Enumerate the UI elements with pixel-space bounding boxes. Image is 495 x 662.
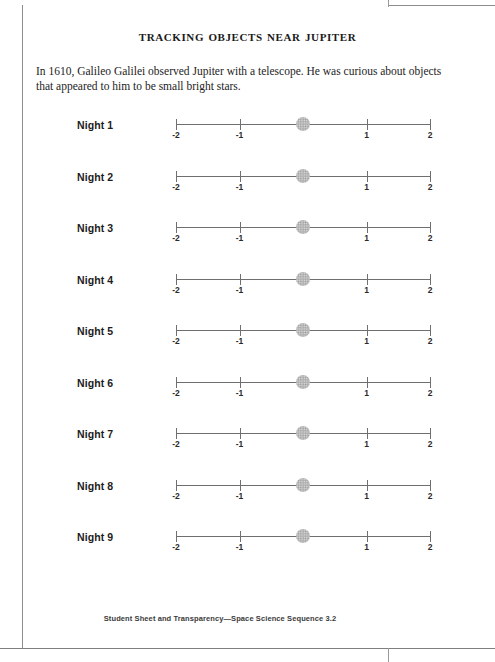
axis-tick bbox=[430, 274, 431, 285]
axis-tick-label: -2 bbox=[166, 542, 186, 552]
axis-tick-label: 1 bbox=[357, 285, 377, 295]
worksheet-sheet: Tracking Objects Near Jupiter In 1610, G… bbox=[0, 0, 495, 648]
axis-tick-label: 1 bbox=[357, 439, 377, 449]
number-line: -2-112 bbox=[176, 270, 430, 300]
axis-tick-label: -1 bbox=[230, 285, 250, 295]
number-line: -2-112 bbox=[176, 476, 430, 506]
jupiter-marker bbox=[296, 529, 310, 543]
axis-tick bbox=[367, 377, 368, 388]
jupiter-marker bbox=[296, 375, 310, 389]
number-line: -2-112 bbox=[176, 527, 430, 557]
axis-tick-label: 2 bbox=[420, 491, 440, 501]
axis-tick-label: -2 bbox=[166, 439, 186, 449]
jupiter-marker bbox=[296, 478, 310, 492]
scan-edge-bottom bbox=[0, 648, 495, 649]
jupiter-marker bbox=[296, 220, 310, 234]
axis-tick-label: 2 bbox=[420, 182, 440, 192]
axis-tick bbox=[240, 377, 241, 388]
axis-tick bbox=[367, 119, 368, 130]
axis-tick-label: 2 bbox=[420, 439, 440, 449]
axis-tick-label: -1 bbox=[230, 388, 250, 398]
axis-tick-label: 1 bbox=[357, 130, 377, 140]
axis-tick bbox=[367, 531, 368, 542]
axis-tick-label: 2 bbox=[420, 233, 440, 243]
night-label: Night 6 bbox=[77, 377, 167, 389]
axis-tick-label: 1 bbox=[357, 336, 377, 346]
axis-tick bbox=[240, 325, 241, 336]
night-row: Night 4-2-112 bbox=[0, 270, 495, 304]
axis-tick-label: -2 bbox=[166, 285, 186, 295]
axis-tick bbox=[430, 377, 431, 388]
night-row: Night 7-2-112 bbox=[0, 424, 495, 458]
axis-tick-label: 2 bbox=[420, 388, 440, 398]
jupiter-marker bbox=[296, 272, 310, 286]
axis-tick bbox=[240, 119, 241, 130]
night-row: Night 9-2-112 bbox=[0, 527, 495, 561]
axis-tick-label: 2 bbox=[420, 130, 440, 140]
axis-tick-label: 1 bbox=[357, 388, 377, 398]
axis-tick-label: -1 bbox=[230, 130, 250, 140]
footer-credit: Student Sheet and Transparency—Space Sci… bbox=[0, 614, 440, 623]
axis-tick bbox=[367, 171, 368, 182]
axis-tick bbox=[367, 274, 368, 285]
night-row: Night 1-2-112 bbox=[0, 115, 495, 149]
axis-tick bbox=[367, 325, 368, 336]
axis-tick-label: -1 bbox=[230, 542, 250, 552]
axis-tick-label: -1 bbox=[230, 491, 250, 501]
axis-tick bbox=[367, 480, 368, 491]
night-rows-container: Night 1-2-112Night 2-2-112Night 3-2-112N… bbox=[0, 0, 495, 600]
axis-tick bbox=[367, 428, 368, 439]
axis-tick bbox=[240, 274, 241, 285]
axis-tick bbox=[240, 480, 241, 491]
axis-tick bbox=[176, 274, 177, 285]
axis-tick bbox=[430, 171, 431, 182]
axis-tick bbox=[176, 119, 177, 130]
number-line: -2-112 bbox=[176, 115, 430, 145]
axis-tick bbox=[240, 428, 241, 439]
axis-tick-label: 2 bbox=[420, 542, 440, 552]
axis-tick bbox=[176, 222, 177, 233]
axis-tick bbox=[430, 531, 431, 542]
night-label: Night 1 bbox=[77, 119, 167, 131]
axis-tick-label: -2 bbox=[166, 336, 186, 346]
axis-tick-label: 1 bbox=[357, 491, 377, 501]
number-line: -2-112 bbox=[176, 424, 430, 454]
axis-tick-label: -1 bbox=[230, 233, 250, 243]
axis-tick bbox=[430, 119, 431, 130]
number-line: -2-112 bbox=[176, 321, 430, 351]
axis-tick-label: -2 bbox=[166, 491, 186, 501]
night-row: Night 8-2-112 bbox=[0, 476, 495, 510]
night-label: Night 8 bbox=[77, 480, 167, 492]
night-row: Night 6-2-112 bbox=[0, 373, 495, 407]
number-line: -2-112 bbox=[176, 167, 430, 197]
axis-tick bbox=[430, 325, 431, 336]
night-row: Night 2-2-112 bbox=[0, 167, 495, 201]
night-label: Night 3 bbox=[77, 222, 167, 234]
axis-tick-label: 1 bbox=[357, 233, 377, 243]
axis-tick-label: -1 bbox=[230, 182, 250, 192]
scan-edge-bottom-tick bbox=[388, 648, 389, 662]
night-label: Night 4 bbox=[77, 274, 167, 286]
jupiter-marker bbox=[296, 169, 310, 183]
jupiter-marker bbox=[296, 426, 310, 440]
jupiter-marker bbox=[296, 323, 310, 337]
axis-tick bbox=[176, 480, 177, 491]
night-row: Night 3-2-112 bbox=[0, 218, 495, 252]
axis-tick-label: -1 bbox=[230, 336, 250, 346]
axis-tick bbox=[240, 171, 241, 182]
night-label: Night 2 bbox=[77, 171, 167, 183]
axis-tick bbox=[240, 531, 241, 542]
axis-tick-label: -2 bbox=[166, 130, 186, 140]
axis-tick bbox=[176, 531, 177, 542]
axis-tick-label: 1 bbox=[357, 542, 377, 552]
number-line: -2-112 bbox=[176, 218, 430, 248]
axis-tick-label: 2 bbox=[420, 285, 440, 295]
axis-tick-label: -2 bbox=[166, 388, 186, 398]
number-line: -2-112 bbox=[176, 373, 430, 403]
axis-tick-label: -1 bbox=[230, 439, 250, 449]
axis-tick bbox=[430, 222, 431, 233]
night-label: Night 5 bbox=[77, 325, 167, 337]
axis-tick bbox=[176, 377, 177, 388]
night-label: Night 7 bbox=[77, 428, 167, 440]
axis-tick bbox=[176, 428, 177, 439]
